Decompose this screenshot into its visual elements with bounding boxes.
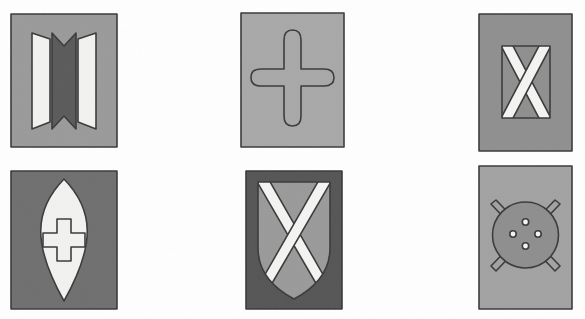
figure-plate <box>0 0 585 319</box>
left-pale-accent <box>32 33 50 129</box>
panel-field <box>241 13 344 147</box>
shield-saltire-graphic <box>245 170 343 310</box>
bowtie-charge <box>52 33 76 129</box>
panel-vesica-cross-device <box>10 170 118 310</box>
panel-saltire-panel-device <box>478 13 573 152</box>
panel-button-pins-device <box>478 165 573 310</box>
bowtie-device-graphic <box>10 13 118 148</box>
panel-shield-saltire-device <box>245 170 343 310</box>
right-pale-accent <box>78 33 96 129</box>
vesica-cross-graphic <box>10 170 118 310</box>
rounded-cross-device-graphic <box>240 12 345 148</box>
saltire-panel-graphic <box>478 13 573 152</box>
button-pins-graphic <box>478 165 573 310</box>
panel-rounded-cross-device <box>240 12 345 148</box>
panel-bowtie-chevron-device <box>10 13 118 148</box>
